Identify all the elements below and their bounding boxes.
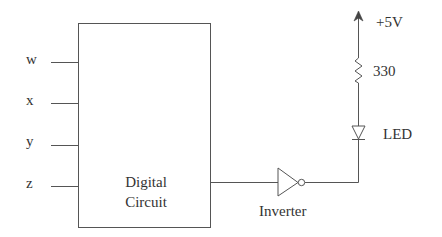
input-label-w: w <box>26 52 37 67</box>
block-label-line1: Digital <box>108 175 184 190</box>
supply-label: +5V <box>376 15 403 30</box>
led-diode-icon <box>352 126 365 139</box>
input-label-z: z <box>26 176 33 191</box>
inverter-label: Inverter <box>259 204 306 219</box>
block-label-line2: Circuit <box>108 195 184 210</box>
inverter-output-wire <box>305 140 359 183</box>
led-label: LED <box>383 127 412 142</box>
resistor-icon <box>355 55 362 85</box>
input-label-x: x <box>26 93 34 108</box>
inverter-bubble-icon <box>298 179 304 185</box>
resistor-label: 330 <box>373 64 396 79</box>
circuit-schematic <box>0 0 442 237</box>
inverter-gate-icon <box>278 168 298 196</box>
input-label-y: y <box>26 134 34 149</box>
